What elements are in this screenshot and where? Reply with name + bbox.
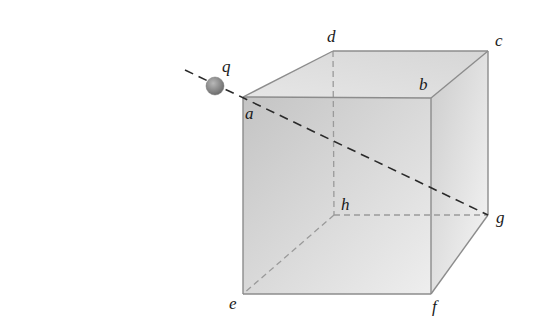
cube-diagram: q a b c d e f g h [0, 0, 538, 332]
label-c: c [495, 31, 503, 50]
label-f: f [432, 297, 439, 316]
label-h: h [341, 195, 350, 214]
cube-front-face [243, 97, 431, 294]
edge-a-b [243, 97, 431, 98]
charge-sphere-icon [206, 77, 224, 95]
label-b: b [419, 75, 428, 94]
label-g: g [496, 208, 505, 227]
label-q: q [222, 57, 231, 76]
label-e: e [229, 294, 237, 313]
label-a: a [245, 104, 254, 123]
label-d: d [327, 27, 336, 46]
